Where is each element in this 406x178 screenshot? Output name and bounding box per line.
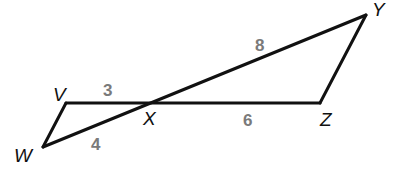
segment-wy	[43, 15, 366, 147]
length-label-wx: 4	[91, 135, 101, 154]
length-label-xy: 8	[255, 36, 264, 55]
vertex-label-x: X	[142, 108, 157, 129]
vertex-label-z: Z	[319, 109, 333, 130]
length-label-vx: 3	[103, 81, 112, 100]
segment-yz	[320, 15, 366, 103]
vertex-label-w: W	[14, 145, 34, 166]
length-label-xz: 6	[243, 111, 252, 130]
vertex-label-y: Y	[372, 0, 386, 20]
geometry-diagram: V W X Y Z 3 4 8 6	[0, 0, 406, 178]
